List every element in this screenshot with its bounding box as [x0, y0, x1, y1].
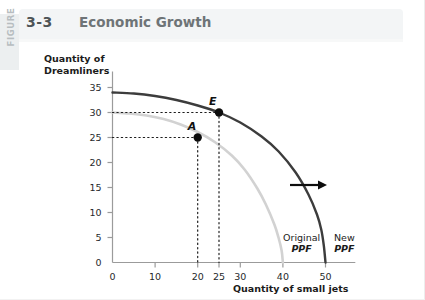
y-tick-label-25: 25 [80, 132, 102, 143]
x-tick-label-40: 40 [271, 271, 295, 282]
y-tick-label-15: 15 [80, 182, 102, 193]
point-label-E: E [209, 95, 217, 108]
shift-arrow-icon [290, 180, 327, 189]
x-tick-label-0: 0 [101, 271, 125, 282]
data-point-A [194, 133, 202, 141]
figure-panel: FIGURE 3-3 Economic Growth Quantity of D… [0, 0, 425, 300]
point-label-A: A [188, 120, 197, 133]
data-point-E [215, 108, 223, 116]
x-axis-title: Quantity of small jets [233, 283, 349, 295]
curve-label-new-ppf: NewPPF [334, 232, 355, 254]
y-tick-label-30: 30 [80, 107, 102, 118]
x-tick-label-50: 50 [314, 271, 338, 282]
ppf-chart [0, 0, 425, 300]
y-tick-label-10: 10 [80, 207, 102, 218]
x-tick-label-10: 10 [143, 271, 167, 282]
curve-label-original-ppf: OriginalPPF [283, 232, 320, 254]
y-tick-label-35: 35 [80, 82, 102, 93]
x-tick-label-30: 30 [228, 271, 252, 282]
y-tick-label-0: 0 [80, 257, 102, 268]
y-tick-label-5: 5 [80, 232, 102, 243]
y-axis-title: Quantity of Dreamliners [44, 53, 109, 76]
y-tick-label-20: 20 [80, 157, 102, 168]
